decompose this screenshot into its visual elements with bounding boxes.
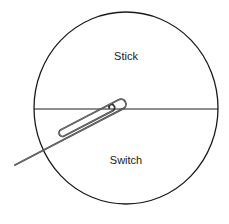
outer-circle — [34, 12, 218, 204]
region-label-switch: Switch — [110, 154, 142, 166]
diagram-canvas — [0, 0, 229, 224]
region-label-stick: Stick — [114, 50, 138, 62]
